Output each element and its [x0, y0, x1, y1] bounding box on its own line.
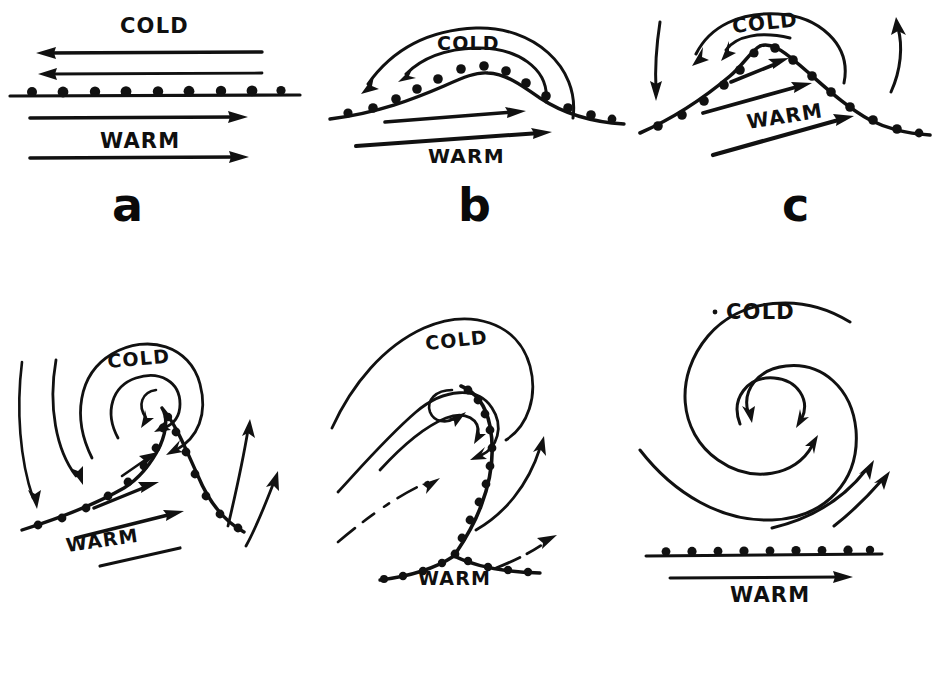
ascending-arrow-c [891, 17, 906, 92]
panel-b: COLD [318, 0, 638, 190]
panel-d: COLD [0, 280, 320, 600]
cold-label-e: COLD [424, 326, 489, 354]
warm-label-a: WARM [100, 129, 180, 153]
outflow-arrow-2-e [496, 535, 557, 568]
warm-arrow-1-f [670, 571, 853, 583]
panel-letter-b: b [458, 182, 491, 228]
cold-spiral-2-e [338, 393, 498, 492]
front-line-f [646, 546, 882, 556]
inflow-arrow-2-d [53, 360, 83, 485]
panel-a: COLD [0, 0, 320, 190]
cold-spiral-2-d [111, 376, 180, 438]
cyclone-life-cycle-figure: COLD [0, 0, 947, 684]
front-line-a [10, 85, 300, 97]
vortex-arm-1-f [685, 303, 850, 474]
panel-letter-c: c [782, 182, 809, 228]
cold-label-d: COLD [106, 345, 170, 372]
cold-spiral-5-e [338, 478, 440, 542]
warm-label-e: WARM [418, 567, 491, 589]
warm-arrow-1-a [30, 111, 248, 123]
panel-e: COLD [318, 280, 638, 600]
warm-arrow-1-b [385, 107, 526, 122]
outflow-arrow-1-d [228, 419, 255, 526]
cold-spiral-3-e [380, 415, 486, 470]
panel-c: COLD [630, 0, 947, 190]
panel-f: COLD [630, 280, 947, 600]
warm-arrow-1-d [122, 452, 158, 476]
cold-arrow-2-a [38, 68, 262, 80]
cold-label-a: COLD [120, 14, 189, 38]
descending-arrow-c [650, 22, 662, 101]
warm-label-d: WARM [64, 524, 140, 556]
panel-letter-a: a [112, 182, 143, 228]
cold-arrow-1-a [36, 47, 262, 59]
front-line-e [451, 386, 497, 559]
warm-label-b: WARM [428, 144, 505, 168]
vortex-arm-2-f [640, 366, 856, 521]
cold-label-dot-f [713, 310, 718, 315]
warm-label-f: WARM [730, 583, 810, 607]
warm-baseline-d [100, 548, 180, 566]
outflow-arrow-2-d [246, 471, 279, 546]
inflow-arrow-1-d [19, 362, 41, 509]
outflow-arrow-2-f [834, 471, 890, 526]
cold-spiral-3-d [141, 390, 156, 428]
